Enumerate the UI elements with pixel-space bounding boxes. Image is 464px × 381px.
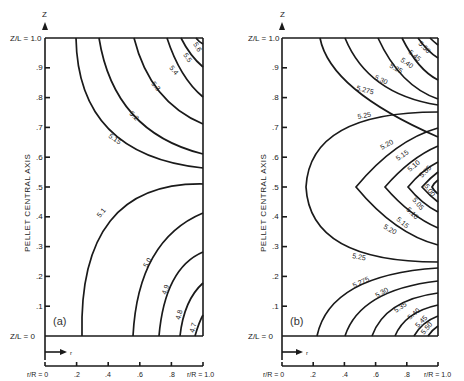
contours — [76, 38, 203, 336]
ytick-top: Z/L = 1.0 — [10, 34, 42, 43]
svg-text:5.25: 5.25 — [352, 252, 367, 261]
xtick: .8 — [404, 371, 410, 378]
ytick: .4 — [36, 212, 43, 221]
xtick: .4 — [105, 371, 111, 378]
xtick: r/R = 1.0 — [187, 371, 214, 378]
svg-text:5.0: 5.0 — [142, 256, 153, 268]
svg-text:5.275: 5.275 — [351, 275, 370, 289]
panel-label: (b) — [290, 315, 303, 327]
svg-text:5.275: 5.275 — [356, 84, 375, 95]
panel-a: Z r Z/L = 1.0 .9 .8 .7 .6 .5 .4 .3 .2 .1… — [10, 10, 214, 378]
xtick: .2 — [74, 371, 80, 378]
y-axis-label: PELLET CENTRAL AXIS — [23, 154, 32, 252]
ytick: .2 — [36, 272, 43, 281]
xtick: .6 — [373, 371, 379, 378]
panel-label: (a) — [53, 315, 66, 327]
svg-text:5.15: 5.15 — [395, 215, 410, 229]
svg-text:5.10: 5.10 — [406, 159, 421, 173]
svg-text:4.9: 4.9 — [160, 284, 170, 296]
ytick: .8 — [272, 93, 279, 102]
ytick: .9 — [272, 63, 279, 72]
ytick-bottom: Z/L = 0 — [248, 332, 273, 341]
ytick: .5 — [36, 183, 43, 192]
xtick: .8 — [169, 371, 175, 378]
xtick: .4 — [342, 371, 348, 378]
ytick-bottom: Z/L = 0 — [10, 332, 35, 341]
svg-text:5.15: 5.15 — [107, 132, 122, 146]
ytick-top: Z/L = 1.0 — [248, 34, 280, 43]
svg-text:5.20: 5.20 — [379, 138, 394, 151]
z-axis-arrow-icon — [279, 22, 285, 30]
ytick: .6 — [36, 153, 43, 162]
ytick: .9 — [36, 63, 43, 72]
ytick: .1 — [36, 302, 43, 311]
ytick: .4 — [272, 212, 279, 221]
panel-b: Z r Z/L = 1.0 .9 .8 .7 .6 .5 .4 .3 .2 .1… — [248, 10, 451, 378]
r-axis-label: r — [70, 350, 72, 356]
xtick: r/R = 0 — [27, 371, 48, 378]
xtick: .2 — [310, 371, 316, 378]
y-axis-label: PELLET CENTRAL AXIS — [259, 154, 268, 252]
ytick: .7 — [272, 123, 279, 132]
ytick: .5 — [272, 183, 279, 192]
svg-text:5.1: 5.1 — [95, 207, 107, 219]
svg-text:5.15: 5.15 — [395, 148, 410, 162]
ytick: .8 — [36, 93, 43, 102]
ytick: .1 — [272, 302, 279, 311]
ytick: .7 — [36, 123, 43, 132]
z-axis-label: Z — [42, 10, 47, 19]
ytick: .3 — [272, 242, 279, 251]
contour-labels: 5.6 5.5 5.4 5.3 5.2 5.15 5.1 5.0 4.9 4.8… — [95, 41, 203, 333]
ytick: .2 — [272, 272, 279, 281]
ytick: .6 — [272, 153, 279, 162]
contours — [306, 38, 438, 336]
xtick: r/R = 0 — [263, 371, 284, 378]
svg-text:5.5: 5.5 — [182, 52, 193, 64]
r-axis-label: r — [306, 350, 308, 356]
xtick: .6 — [137, 371, 143, 378]
z-axis-arrow-icon — [42, 22, 48, 30]
r-axis-arrow-icon — [60, 349, 67, 355]
z-axis-label: Z — [280, 10, 285, 19]
figure: Z r Z/L = 1.0 .9 .8 .7 .6 .5 .4 .3 .2 .1… — [0, 0, 464, 381]
r-axis-arrow-icon — [296, 349, 303, 355]
svg-text:5.3: 5.3 — [150, 80, 162, 92]
svg-text:5.25: 5.25 — [357, 111, 372, 120]
svg-text:5.35: 5.35 — [389, 62, 404, 75]
ytick: .3 — [36, 242, 43, 251]
xtick: r/R = 1.0 — [424, 371, 451, 378]
svg-text:4.8: 4.8 — [174, 309, 183, 320]
